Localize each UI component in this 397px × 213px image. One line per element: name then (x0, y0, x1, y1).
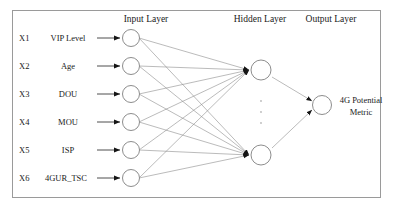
input-layer-title: Input Layer (124, 14, 169, 24)
input-node-3[interactable] (123, 86, 140, 103)
variable-label-x2: X2 (19, 61, 29, 71)
neural-network-diagram: Input Layer Hidden Layer Output Layer (0, 0, 397, 213)
feature-label-dou: DOU (59, 89, 77, 99)
hidden-layer-title: Hidden Layer (234, 14, 287, 24)
variable-label-x5: X5 (19, 145, 29, 155)
input-node-2[interactable] (123, 58, 140, 75)
output-label-line1: 4G Potential (340, 95, 383, 105)
variable-label-x1: X1 (19, 33, 29, 43)
input-node-1[interactable] (123, 30, 140, 47)
output-label-line2: Metric (350, 107, 373, 117)
input-node-5[interactable] (123, 142, 140, 159)
variable-label-x6: X6 (19, 173, 29, 183)
feature-label-vip-level: VIP Level (51, 33, 86, 43)
feature-label-4gur-tsc: 4GUR_TSC (45, 173, 87, 183)
feature-label-age: Age (61, 61, 75, 71)
network-canvas: Input Layer Hidden Layer Output Layer (0, 0, 397, 213)
output-node[interactable] (313, 96, 332, 115)
hidden-node-bottom[interactable] (251, 145, 271, 165)
output-layer-title: Output Layer (306, 14, 358, 24)
feature-label-isp: ISP (62, 145, 75, 155)
hidden-node-top[interactable] (251, 60, 271, 80)
input-node-4[interactable] (123, 114, 140, 131)
input-node-6[interactable] (123, 170, 140, 187)
variable-label-x4: X4 (19, 117, 30, 127)
variable-label-x3: X3 (19, 89, 29, 99)
feature-label-mou: MOU (58, 117, 78, 127)
